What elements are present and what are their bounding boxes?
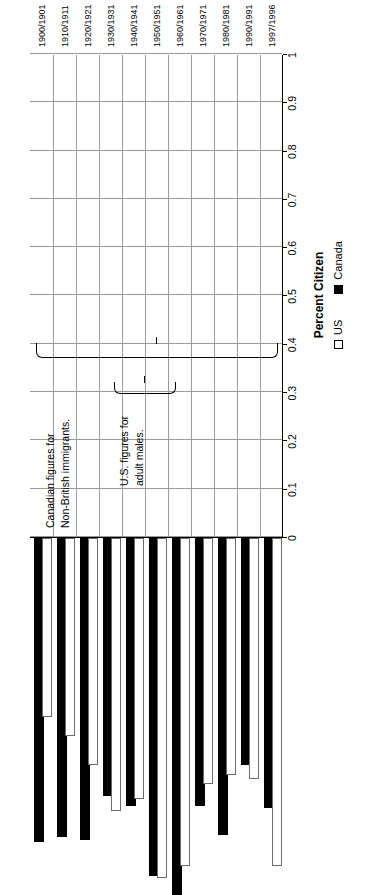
category-tick-label: 1930/1931: [106, 4, 116, 47]
gridline: [30, 101, 282, 102]
category-separator: [260, 55, 261, 537]
bar-us: [65, 538, 75, 736]
bar-us: [249, 538, 259, 780]
category-tick-label: 1950/1951: [152, 4, 162, 47]
annotation-us-brace-icon: [114, 382, 176, 394]
category-tick-label: 1990/1991: [244, 4, 254, 47]
annotation-canada-line2: Non-British immigrants.: [59, 419, 71, 528]
category-tick-label: 1980/1981: [221, 4, 231, 47]
category-separator: [76, 55, 77, 537]
category-separator: [214, 55, 215, 537]
annotation-canada-brace-tip-icon: [156, 337, 157, 344]
bar-us: [157, 538, 167, 879]
category-tick-label: 1997/1996: [267, 4, 277, 47]
value-tick-label: 0.4: [286, 325, 298, 365]
value-tick-label: 0.9: [286, 83, 298, 123]
annotation-us-brace-tip-icon: [144, 376, 145, 383]
gridline: [30, 295, 282, 296]
axis-title-percent-citizen: Percent Citizen: [312, 0, 326, 590]
legend-swatch-us-icon: [334, 340, 343, 349]
value-tick-label: 0.8: [286, 132, 298, 172]
value-tick-label: 0.3: [286, 373, 298, 413]
bar-us: [180, 538, 190, 866]
bar-us: [42, 538, 52, 717]
value-tick-label: 0.5: [286, 277, 298, 317]
value-tick-label: 0.2: [286, 421, 298, 461]
category-tick-label: 1940/1941: [129, 4, 139, 47]
category-separator: [191, 55, 192, 537]
bar-us: [203, 538, 213, 784]
category-tick-label: 1970/1971: [198, 4, 208, 47]
legend-label-us: US: [332, 320, 344, 335]
gridline: [30, 53, 282, 54]
value-tick-label: 0: [286, 518, 298, 558]
bar-us: [272, 538, 282, 866]
bar-us: [226, 538, 236, 775]
gridline: [30, 150, 282, 151]
value-tick-label: 0.6: [286, 228, 298, 268]
annotation-us-line1: U.S. figures for: [118, 416, 130, 486]
bar-us: [111, 538, 121, 811]
chart-legend: US Canada: [332, 0, 344, 590]
category-tick-label: 1960/1961: [175, 4, 185, 47]
category-tick-label: 1920/1921: [83, 4, 93, 47]
bar-us: [134, 538, 144, 799]
legend-swatch-canada-icon: [334, 285, 343, 294]
legend-item-us: US: [332, 320, 344, 349]
gridline: [30, 198, 282, 199]
category-separator: [237, 55, 238, 537]
value-tick-label: 1: [286, 35, 298, 75]
category-separator: [145, 55, 146, 537]
value-tick-label: 0.7: [286, 180, 298, 220]
legend-label-canada: Canada: [332, 241, 344, 280]
bar-us: [88, 538, 98, 765]
annotation-us-line2: adult males.: [133, 429, 145, 486]
category-separator: [99, 55, 100, 537]
gridline: [30, 536, 282, 537]
legend-item-canada: Canada: [332, 241, 344, 294]
category-tick-label: 1910/1911: [60, 5, 70, 47]
value-tick-label: 0.1: [286, 470, 298, 510]
category-tick-label: 1900/1901: [37, 4, 47, 47]
gridline: [30, 246, 282, 247]
annotation-canada-brace-icon: [36, 343, 278, 358]
annotation-canada-line1: Canadian figures for: [44, 433, 56, 528]
category-separator: [168, 55, 169, 537]
